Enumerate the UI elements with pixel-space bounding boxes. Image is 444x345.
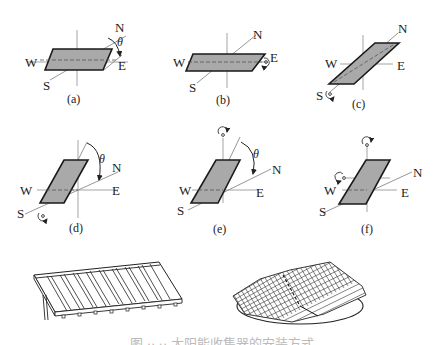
label-west: W (324, 183, 337, 198)
tracking-pv-array (220, 226, 381, 345)
label-north: N (398, 21, 408, 36)
rotation-icon (326, 91, 334, 99)
label-south: S (189, 80, 196, 95)
label-south: S (319, 204, 326, 219)
subfigure-d: θ N E W S (d) (17, 140, 122, 235)
label-north: N (413, 165, 423, 180)
label-west: W (20, 183, 33, 198)
subfigure-label-f: (f) (361, 222, 373, 236)
label-east: E (118, 58, 126, 73)
subfigure-e: θ N E W S (e) (177, 127, 282, 236)
figure-caption-text: 图 ·· ·· 太阳能收集器的安装方式 (0, 336, 444, 345)
label-east: E (256, 185, 264, 200)
subfigure-label-a: (a) (67, 92, 80, 106)
label-north: N (253, 27, 263, 42)
solar-panel (45, 49, 112, 70)
subfigure-label-d: (d) (69, 221, 83, 235)
subfigure-f: N E W S (f) (319, 137, 423, 236)
label-north: N (272, 162, 282, 177)
theta-symbol: θ (117, 35, 123, 49)
label-east: E (401, 185, 409, 200)
solar-panel (329, 43, 399, 84)
theta-symbol: θ (99, 152, 105, 166)
label-north: N (112, 160, 122, 175)
solar-panel (191, 160, 240, 203)
label-south: S (17, 206, 24, 221)
fixed-collector-array (34, 262, 182, 320)
subfigure-a: N θ E W S (a) (25, 20, 128, 106)
label-west: W (325, 56, 338, 71)
label-south: S (177, 203, 184, 218)
solar-orientation-figure: N θ E W S (a) N E W S (b) N E W S (c) (0, 0, 444, 345)
figure-caption: 图 ·· ·· 太阳能收集器的安装方式 (0, 336, 444, 345)
solar-panel (339, 160, 390, 204)
label-east: E (397, 58, 405, 73)
subfigure-label-c: (c) (352, 97, 365, 111)
label-south: S (316, 88, 323, 103)
subfigure-b: N E W S (b) (173, 27, 278, 107)
solar-panel (186, 54, 265, 71)
label-west: W (25, 55, 38, 70)
rotation-icon-vertical (362, 137, 371, 144)
rotation-icon-horizontal (335, 172, 343, 181)
label-south: S (43, 78, 50, 93)
theta-symbol: θ (253, 147, 259, 161)
subfigure-label-e: (e) (213, 222, 226, 236)
label-west: W (173, 55, 186, 70)
label-west: W (179, 183, 192, 198)
subfigure-label-b: (b) (216, 93, 230, 107)
solar-panel (40, 160, 88, 203)
label-north: N (115, 20, 125, 35)
label-east: E (270, 50, 278, 65)
subfigure-c: N E W S (c) (316, 21, 408, 111)
label-east: E (112, 183, 120, 198)
rotation-icon (218, 127, 227, 134)
